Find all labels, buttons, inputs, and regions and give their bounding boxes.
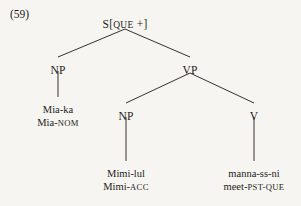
tree-node-vp: VP: [182, 64, 197, 78]
tree-edge-s-node-vp: [125, 29, 190, 57]
tree-leaf-subject: Mia-ka Mia-NOM: [37, 104, 79, 130]
tree-node-s: S[QUE +]: [103, 18, 148, 32]
leaf-subject-surface: Mia-ka: [43, 104, 73, 115]
leaf-verb-gloss-stem: meet-: [224, 181, 248, 192]
node-s-label-main: S[: [103, 18, 114, 30]
leaf-object-gloss-stem: Mimi-: [103, 181, 130, 192]
tree-node-np-subject: NP: [50, 64, 65, 78]
leaf-object-gloss-feature: ACC: [130, 182, 149, 192]
node-s-feature-que: QUE: [113, 20, 133, 30]
tree-edge-vp-v: [190, 73, 254, 103]
leaf-object-gloss: Mimi-ACC: [103, 181, 149, 193]
tree-node-np-object: NP: [118, 110, 133, 124]
tree-leaf-object: Mimi-lul Mimi-ACC: [103, 168, 149, 194]
tree-node-v: V: [250, 110, 259, 124]
syntax-tree-figure: (59) S[QUE +] NP VP NP V Mia-ka Mia-NOM …: [0, 0, 301, 206]
leaf-subject-gloss-stem: Mia-: [37, 117, 57, 128]
leaf-verb-surface: manna-ss-ni: [228, 168, 279, 179]
leaf-verb-gloss: meet-PST-QUE: [224, 181, 285, 193]
tree-leaf-verb: manna-ss-ni meet-PST-QUE: [224, 168, 285, 194]
leaf-object-surface: Mimi-lul: [107, 168, 145, 179]
leaf-subject-gloss-feature: NOM: [58, 118, 79, 128]
tree-edge-vp-np-object: [126, 73, 190, 103]
node-s-label-tail: +]: [134, 18, 148, 30]
tree-edge-s-node-np-subject: [58, 29, 125, 57]
leaf-verb-gloss-feature: PST-QUE: [247, 182, 284, 192]
leaf-subject-gloss: Mia-NOM: [37, 117, 79, 129]
